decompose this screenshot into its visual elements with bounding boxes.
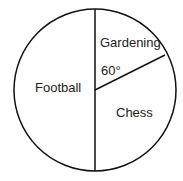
pie-chart: Football Gardening 60° Chess (0, 0, 183, 181)
angle-annotation: 60° (101, 63, 121, 78)
slice-label-football: Football (35, 80, 81, 95)
slice-label-gardening: Gardening (100, 35, 161, 50)
slice-label-chess: Chess (116, 105, 153, 120)
